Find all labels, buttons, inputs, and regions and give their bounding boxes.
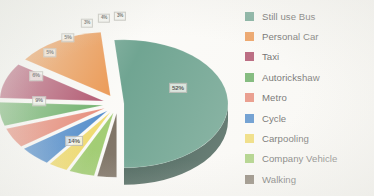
legend-item-label: Walking (262, 174, 296, 185)
legend-swatch-icon (245, 32, 254, 41)
legend-item-label: Personal Car (262, 31, 319, 42)
legend-item[interactable]: Personal Car (243, 26, 374, 46)
legend-item-label: Still use Bus (262, 11, 315, 22)
legend-item[interactable]: Cycle (243, 108, 374, 128)
pie-slice-value-label: 6% (29, 71, 43, 81)
legend-swatch-icon (245, 154, 254, 163)
legend-item[interactable]: Taxi (243, 47, 374, 67)
pie-plot-area: 52%14%9%6%5%5%3%4%3% (0, 0, 240, 196)
legend-swatch-icon (245, 134, 254, 143)
legend-item[interactable]: Walking (243, 169, 374, 189)
legend-item[interactable]: Carpooling (243, 128, 374, 148)
pie-chart-figure: 52%14%9%6%5%5%3%4%3% Still use BusPerson… (0, 0, 374, 196)
legend-swatch-icon (245, 93, 254, 102)
pie-slice-value-label: 5% (61, 33, 74, 42)
legend-swatch-icon (245, 12, 254, 21)
legend-item-label: Autorickshaw (262, 72, 320, 83)
legend-item-label: Metro (262, 92, 287, 103)
legend-swatch-icon (245, 52, 254, 61)
pie-slice-value-label: 52% (169, 83, 187, 93)
legend-item[interactable]: Still use Bus (243, 6, 374, 26)
legend-swatch-icon (245, 73, 254, 82)
legend-item-label: Cycle (262, 113, 286, 124)
pie-slice-value-label: 5% (43, 48, 56, 57)
legend-item[interactable]: Metro (243, 88, 374, 108)
legend-item-label: Taxi (262, 51, 279, 62)
legend-item-label: Carpooling (262, 133, 309, 144)
pie-slice-value-label: 9% (32, 96, 46, 106)
pie-slice-value-label: 3% (81, 19, 93, 28)
pie-slice-value-label: 3% (114, 12, 126, 21)
legend-item[interactable]: Company Vehicle (243, 149, 374, 169)
legend-swatch-icon (245, 114, 254, 123)
chart-legend: Still use BusPersonal CarTaxiAutoricksha… (243, 6, 374, 192)
pie-slice-value-label: 14% (65, 136, 83, 146)
legend-item[interactable]: Autorickshaw (243, 67, 374, 87)
legend-item-label: Company Vehicle (262, 153, 337, 164)
pie-slice-value-label: 4% (98, 14, 110, 23)
legend-swatch-icon (245, 175, 254, 184)
